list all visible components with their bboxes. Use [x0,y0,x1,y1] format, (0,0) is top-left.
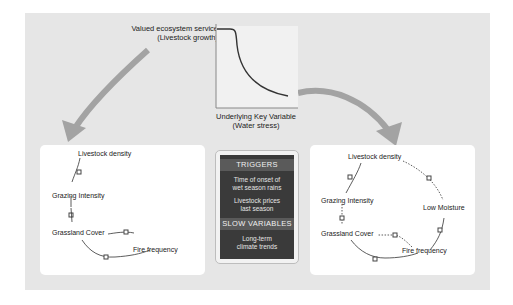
right-node-low-moisture: Low Moisture [423,204,465,211]
right-node-grassland-cover: Grassland Cover [321,230,374,237]
right-node-grazing-intensity: Grazing Intensity [321,197,374,204]
right-node-fire-frequency: Fire frequency [402,247,447,254]
right-loop-links [0,0,513,305]
right-node-livestock-density: Livestock density [348,153,401,160]
